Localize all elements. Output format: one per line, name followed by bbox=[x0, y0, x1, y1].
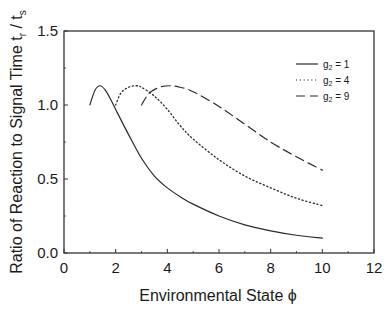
y-tick-label: 1.5 bbox=[37, 22, 58, 39]
y-tick-label: 1.0 bbox=[37, 96, 58, 113]
legend-label: g2 = 9 bbox=[323, 91, 350, 103]
x-tick-label: 12 bbox=[366, 259, 383, 276]
line-chart: 024681012 0.00.51.01.5 g2 = 1g2 = 4g2 = … bbox=[0, 0, 390, 315]
x-axis-title: Environmental State ϕ bbox=[139, 287, 297, 304]
x-tick-label: 8 bbox=[266, 259, 274, 276]
y-axis-title-mid: / t bbox=[8, 15, 25, 33]
data-series bbox=[90, 86, 323, 238]
y-axis-title-main: Ratio of Reaction to Signal Time t bbox=[8, 36, 25, 274]
y-axis-title-sub-s: s bbox=[17, 10, 28, 15]
x-tick-label: 6 bbox=[215, 259, 223, 276]
x-tick-label: 10 bbox=[314, 259, 331, 276]
series-line-solid bbox=[90, 86, 323, 238]
legend-label: g2 = 4 bbox=[323, 75, 350, 87]
y-tick-label: 0.5 bbox=[37, 170, 58, 187]
y-tick-label: 0.0 bbox=[37, 244, 58, 261]
y-axis-title: Ratio of Reaction to Signal Time tr / ts bbox=[8, 10, 28, 274]
legend: g2 = 1g2 = 4g2 = 9 bbox=[296, 59, 350, 103]
x-tick-label: 2 bbox=[111, 259, 119, 276]
series-line-dotted bbox=[116, 86, 323, 206]
series-line-dashed bbox=[142, 86, 323, 170]
x-tick-label: 4 bbox=[163, 259, 171, 276]
x-tick-label: 0 bbox=[60, 259, 68, 276]
legend-label: g2 = 1 bbox=[323, 59, 350, 71]
